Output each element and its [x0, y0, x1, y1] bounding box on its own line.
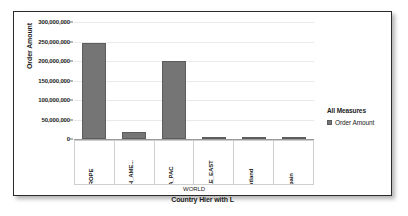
- y-tick-label: 200,000,000: [14, 58, 70, 64]
- legend-item[interactable]: Order Amount: [327, 119, 374, 126]
- y-tick-mark: [70, 100, 73, 101]
- y-tick-label: 250,000,000: [14, 39, 70, 45]
- category-cell[interactable]: Scotland: [234, 141, 274, 185]
- y-tick-mark: [70, 119, 73, 120]
- gridline: [74, 100, 314, 101]
- y-tick-label: 0: [14, 136, 70, 142]
- category-cell[interactable]: NORTH_AME...: [115, 141, 155, 185]
- category-label: NORTH_AME...: [128, 160, 134, 185]
- category-label: Scotland: [248, 169, 254, 185]
- gridline: [74, 61, 314, 62]
- category-cell[interactable]: MIDDLE_EAST: [194, 141, 234, 185]
- category-label: ASIA_PAC: [168, 166, 174, 185]
- y-tick-label: 150,000,000: [14, 78, 70, 84]
- y-tick-mark: [70, 80, 73, 81]
- x-axis-title: Country Hier with L: [14, 196, 391, 203]
- category-label: MIDDLE_EAST: [208, 160, 214, 185]
- plot-area: 300,000,000250,000,000200,000,000150,000…: [74, 22, 314, 140]
- category-cell[interactable]: ASIA_PAC: [155, 141, 195, 185]
- y-tick-label: 50,000,000: [14, 117, 70, 123]
- bar[interactable]: [122, 132, 147, 139]
- category-label: Spain: [288, 173, 294, 185]
- category-cell[interactable]: Spain: [274, 141, 314, 185]
- gridline: [74, 120, 314, 121]
- y-tick-label: 100,000,000: [14, 97, 70, 103]
- y-tick-mark: [70, 139, 73, 140]
- gridline: [74, 42, 314, 43]
- legend: All Measures Order Amount: [327, 107, 374, 126]
- bar[interactable]: [282, 137, 307, 139]
- legend-swatch-icon: [327, 120, 332, 125]
- y-tick-label: 300,000,000: [14, 19, 70, 25]
- bar[interactable]: [162, 61, 187, 139]
- category-axis: EUROPENORTH_AME...ASIA_PACMIDDLE_EASTSco…: [74, 140, 314, 185]
- group-label: WORLD: [74, 186, 314, 192]
- category-cell[interactable]: EUROPE: [75, 141, 115, 185]
- y-tick-mark: [70, 22, 73, 23]
- category-label: EUROPE: [88, 169, 94, 185]
- gridline: [74, 22, 314, 23]
- y-tick-mark: [70, 61, 73, 62]
- bar[interactable]: [202, 137, 227, 139]
- plot-inner: 300,000,000250,000,000200,000,000150,000…: [74, 22, 314, 140]
- legend-items: Order Amount: [327, 119, 374, 126]
- legend-title: All Measures: [327, 107, 374, 114]
- legend-item-label: Order Amount: [335, 119, 374, 126]
- y-tick-mark: [70, 41, 73, 42]
- gridline: [74, 81, 314, 82]
- chart-panel: Order Amount 300,000,000250,000,000200,0…: [13, 11, 392, 196]
- bar[interactable]: [82, 43, 107, 139]
- bar[interactable]: [242, 137, 267, 139]
